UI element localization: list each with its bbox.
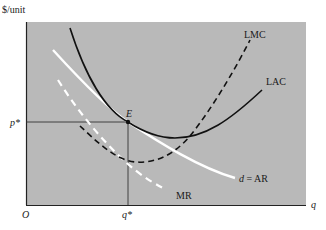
equilibrium-label: E xyxy=(125,108,132,119)
x-axis-label: q xyxy=(311,199,316,210)
mr-label: MR xyxy=(176,190,192,201)
diagram-canvas: $/unit q O p* q* E LMC LAC d = AR MR xyxy=(0,0,326,230)
quantity-tick-label: q* xyxy=(122,209,132,220)
origin-label: O xyxy=(22,209,29,220)
y-axis-label: $/unit xyxy=(2,4,26,15)
demand-label: d = AR xyxy=(239,173,268,184)
lac-label: LAC xyxy=(266,76,286,87)
equilibrium-point xyxy=(126,120,130,124)
price-tick-label: p* xyxy=(9,117,20,128)
lmc-label: LMC xyxy=(244,29,266,40)
